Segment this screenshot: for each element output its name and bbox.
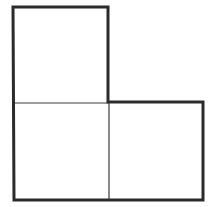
l-tromino-diagram	[0, 0, 213, 207]
